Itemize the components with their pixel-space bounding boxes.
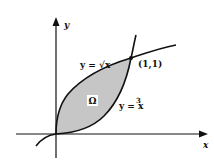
- omega-label: Ω: [89, 96, 97, 106]
- intersection-label: (1,1): [138, 59, 162, 70]
- sqrt-curve-label: y = √x: [79, 60, 111, 70]
- y-axis-arrow-icon: [53, 17, 60, 26]
- x-axis-label: x: [202, 140, 209, 150]
- intersection-point-dot: [129, 56, 133, 60]
- cubic-curve-exponent: 3: [136, 96, 141, 105]
- region-diagram: y x y = √x (1,1) Ω y = x 3: [0, 0, 214, 166]
- x-axis-arrow-icon: [199, 131, 208, 138]
- y-axis-label: y: [63, 20, 70, 30]
